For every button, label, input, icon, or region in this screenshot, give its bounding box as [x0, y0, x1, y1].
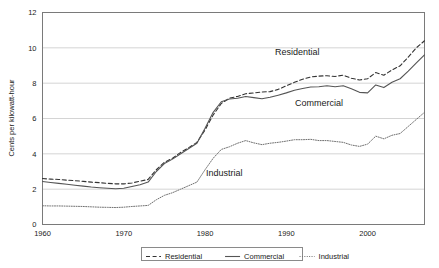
- y-tick-2: 2: [32, 185, 36, 194]
- chart-figure: 024681012 19601970198019902000 Cents per…: [0, 0, 439, 268]
- x-tick-1990: 1990: [278, 229, 295, 238]
- x-tick-1970: 1970: [115, 229, 132, 238]
- y-axis-title: Cents per kilowatt-hour: [7, 79, 16, 157]
- y-tick-6: 6: [32, 114, 36, 123]
- y-tick-4: 4: [32, 150, 36, 159]
- series-label-industrial: Industrial: [206, 168, 243, 178]
- x-tick-1960: 1960: [34, 229, 51, 238]
- chart-canvas: 024681012 19601970198019902000 Cents per…: [0, 0, 439, 268]
- legend-label-residential: Residential: [165, 252, 202, 261]
- legend-label-industrial: Industrial: [319, 252, 350, 261]
- y-tick-12: 12: [28, 8, 36, 17]
- x-tick-2000: 2000: [359, 229, 376, 238]
- x-tick-1980: 1980: [197, 229, 214, 238]
- series-label-residential: Residential: [275, 47, 320, 57]
- legend-label-commercial: Commercial: [244, 252, 284, 261]
- y-tick-8: 8: [32, 79, 36, 88]
- y-tick-10: 10: [28, 44, 36, 53]
- series-label-commercial: Commercial: [295, 98, 343, 108]
